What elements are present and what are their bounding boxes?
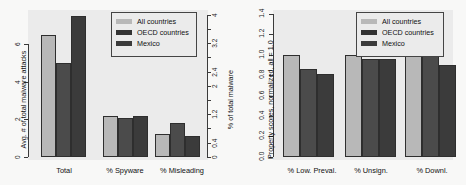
y-axis-title-left: Avg. # of total malware attacks <box>20 35 27 165</box>
y2-tick-0-8 <box>207 128 211 129</box>
y2-ticklabel-2-4: 2.4 <box>212 65 219 79</box>
legend-item-all-countries: All countries <box>361 16 439 27</box>
x-label-low-preval: % Low. Preval. <box>275 167 349 174</box>
x-label-total: Total <box>39 167 89 174</box>
y-ticklabel-right-1-0: 1.0 <box>259 46 266 62</box>
legend-label-all-countries: All countries <box>382 18 421 25</box>
legend-swatch-oecd-countries <box>116 30 132 35</box>
y-ticklabel-right-0-8: 0.8 <box>259 66 266 82</box>
bar-all-countries-total <box>41 35 56 157</box>
y2-ticklabel-4: 4 <box>212 8 219 22</box>
x-label-misleading: % Misleading <box>146 167 218 174</box>
legend-label-mexico: Mexico <box>382 40 405 47</box>
legend-item-mexico: Mexico <box>361 38 439 49</box>
legend-swatch-mexico <box>116 41 132 46</box>
chart-panel-left: 0 2 4 6 Avg. # of total malware attacks … <box>0 0 233 185</box>
bar-mexico-total <box>71 16 86 157</box>
y-ticklabel-right-0-2: 0.2 <box>259 127 266 143</box>
y2-ticklabel-2: 2 <box>212 79 219 93</box>
legend-label-all-countries: All countries <box>137 18 176 25</box>
legend-left: All countries OECD countries Mexico <box>111 12 197 57</box>
y2-ticklabel-1-2: 1.2 <box>212 107 219 121</box>
legend-swatch-all-countries <box>116 19 132 24</box>
bar-oecd-countries-misleading <box>170 123 185 157</box>
x-label-downl: % Downl. <box>401 167 463 174</box>
bar-all-countries-downl <box>405 55 422 157</box>
bar-all-countries-spyware <box>103 116 118 157</box>
x-label-unsign: % Unsign. <box>339 167 403 174</box>
legend-item-all-countries: All countries <box>116 16 192 27</box>
y-ticklabel-right-0-4: 0.4 <box>259 107 266 123</box>
legend-item-oecd-countries: OECD countries <box>116 27 192 38</box>
bar-oecd-countries-downl <box>422 56 439 157</box>
y2-tick-1-6 <box>207 100 211 101</box>
bar-mexico-spyware <box>133 116 148 157</box>
bar-oecd-countries-low-preval <box>300 69 317 157</box>
legend-label-mexico: Mexico <box>137 40 160 47</box>
legend-swatch-mexico <box>361 41 377 46</box>
bar-oecd-countries-total <box>56 63 71 157</box>
bar-mexico-low-preval <box>317 74 334 157</box>
legend-swatch-all-countries <box>361 19 377 24</box>
y2-tick-2-8 <box>207 57 211 58</box>
bar-mexico-downl <box>439 65 456 157</box>
legend-item-oecd-countries: OECD countries <box>361 27 439 38</box>
bar-mexico-misleading <box>185 136 200 157</box>
y-axis-title-right-chart: Property scores, normalized, all = 1.0 <box>267 5 274 185</box>
bar-mexico-unsign <box>379 59 396 157</box>
bar-oecd-countries-spyware <box>118 118 133 157</box>
legend-swatch-oecd-countries <box>361 30 377 35</box>
y2-tick-3-6 <box>207 29 211 30</box>
y2-ticklabel-0: 0 <box>212 150 219 164</box>
legend-item-mexico: Mexico <box>116 38 192 49</box>
legend-label-oecd-countries: OECD countries <box>382 29 434 36</box>
figure-root: 0 2 4 6 Avg. # of total malware attacks … <box>0 0 466 185</box>
y2-ticklabel-0-4: 0.4 <box>212 136 219 150</box>
legend-label-oecd-countries: OECD countries <box>137 29 189 36</box>
bar-all-countries-misleading <box>155 134 170 157</box>
legend-right: All countries OECD countries Mexico <box>356 12 444 57</box>
y-ticklabel-right-0-0: 0.0 <box>259 148 266 164</box>
y-ticklabel-right-1-2: 1.2 <box>259 25 266 41</box>
bar-oecd-countries-unsign <box>362 59 379 157</box>
chart-panel-right: 0.0 0.2 0.4 0.6 0.8 1.0 1.2 1.4 Property… <box>233 0 466 185</box>
y-ticklabel-right-0-6: 0.6 <box>259 87 266 103</box>
y-ticklabel-right-1-4: 1.4 <box>259 5 266 21</box>
bar-all-countries-low-preval <box>283 55 300 157</box>
bar-all-countries-unsign <box>345 55 362 157</box>
y2-ticklabel-3-2: 3.2 <box>212 36 219 50</box>
